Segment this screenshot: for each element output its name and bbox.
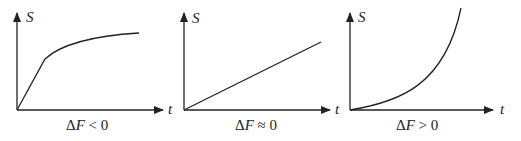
y-axis-label: S <box>358 9 366 25</box>
panel-caption: ΔF ≈ 0 <box>235 117 277 133</box>
x-axis-label: t <box>500 101 505 117</box>
panel-3-graph: S t ΔF > 0 <box>350 8 505 133</box>
y-axis-label: S <box>192 10 200 26</box>
diagram-canvas: S t ΔF < 0 S t ΔF ≈ 0 S t ΔF > 0 <box>0 0 521 141</box>
y-axis-label: S <box>26 9 34 25</box>
panel-caption: ΔF < 0 <box>66 117 108 133</box>
x-axis-label: t <box>335 101 340 117</box>
panel-1-graph: S t ΔF < 0 <box>17 9 173 133</box>
s-curve <box>350 8 461 110</box>
panel-caption: ΔF > 0 <box>396 117 438 133</box>
s-curve <box>17 33 139 110</box>
s-line <box>184 42 321 110</box>
x-axis-label: t <box>168 101 173 117</box>
panel-2-graph: S t ΔF ≈ 0 <box>184 10 340 133</box>
